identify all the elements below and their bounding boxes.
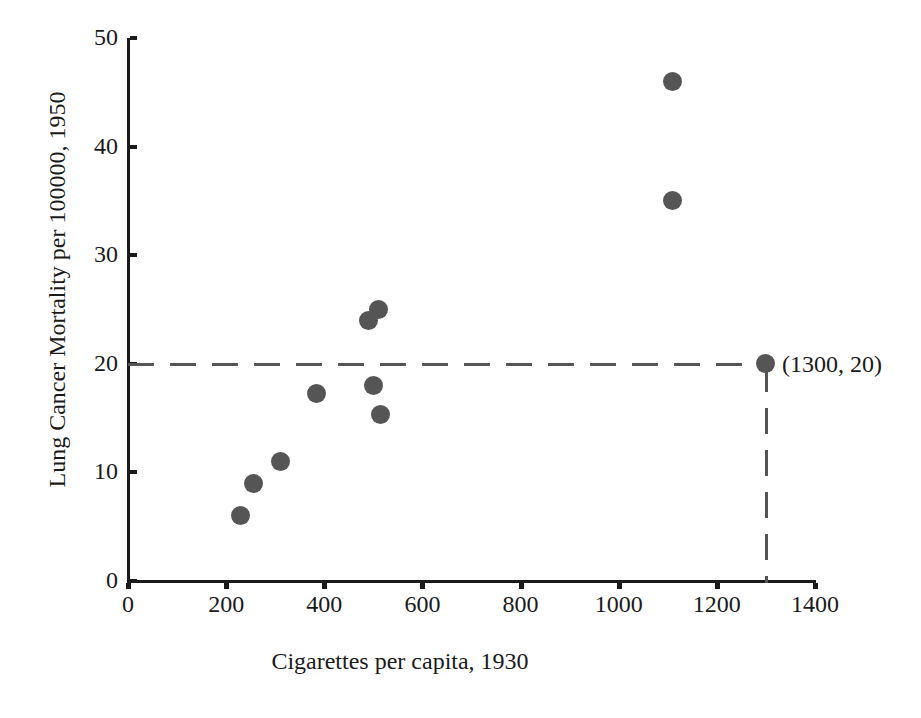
point-annotation-label: (1300, 20): [782, 351, 882, 378]
data-point: [307, 384, 326, 403]
horizontal-guide-line: [128, 363, 768, 366]
y-axis-label: Lung Cancer Mortality per 100000, 1950: [44, 20, 71, 560]
y-tick-label: 40: [76, 134, 118, 158]
x-tick-label: 1000: [584, 592, 654, 616]
x-tick-label: 400: [289, 592, 359, 616]
x-tick-mark: [126, 583, 131, 589]
scatter-plot-figure: Cigarettes per capita, 1930 Lung Cancer …: [0, 0, 921, 718]
y-tick-mark: [130, 145, 137, 149]
x-axis-label: Cigarettes per capita, 1930: [0, 648, 800, 675]
x-tick-mark: [617, 583, 622, 589]
data-point: [244, 474, 263, 493]
x-tick-mark: [813, 583, 818, 589]
x-tick-label: 800: [486, 592, 556, 616]
y-tick-label: 50: [76, 25, 118, 49]
x-tick-mark: [715, 583, 720, 589]
y-axis-line: [127, 38, 130, 583]
y-tick-mark: [130, 579, 137, 583]
x-tick-label: 0: [93, 592, 163, 616]
x-tick-mark: [420, 583, 425, 589]
y-tick-label: 20: [76, 351, 118, 375]
x-tick-label: 1400: [780, 592, 850, 616]
data-point: [231, 506, 250, 525]
data-point: [271, 452, 290, 471]
y-tick-label: 10: [76, 459, 118, 483]
data-point: [756, 354, 775, 373]
x-tick-mark: [322, 583, 327, 589]
x-tick-label: 600: [387, 592, 457, 616]
y-tick-mark: [130, 470, 137, 474]
y-tick-mark: [130, 253, 137, 257]
y-tick-mark: [130, 36, 137, 40]
x-tick-mark: [519, 583, 524, 589]
y-tick-label: 0: [76, 568, 118, 592]
x-axis-line: [127, 580, 816, 583]
data-point: [371, 405, 390, 424]
y-tick-label: 30: [76, 242, 118, 266]
x-tick-mark: [224, 583, 229, 589]
vertical-guide-line: [765, 366, 768, 583]
x-tick-label: 200: [191, 592, 261, 616]
data-point: [663, 72, 682, 91]
x-tick-label: 1200: [682, 592, 752, 616]
data-point: [663, 191, 682, 210]
data-point: [369, 300, 388, 319]
data-point: [364, 376, 383, 395]
